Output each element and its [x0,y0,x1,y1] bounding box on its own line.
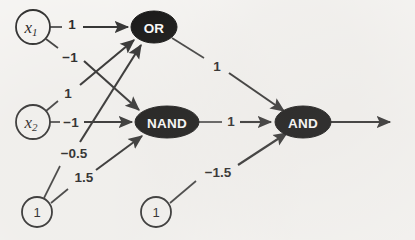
node-gate-nand-label: NAND [147,116,187,131]
edge-nand-and: 1 [198,114,271,129]
node-gate-nand[interactable]: NAND [135,106,199,138]
edge-x2-nand: −1 [50,115,132,130]
diagram-canvas: 1 −1 1 −1 −0.5 1.5 [0,0,415,240]
edge-weight-x1-nand: −1 [62,50,78,65]
edge-x1-or: 1 [50,17,128,32]
node-x2[interactable]: x2 [16,105,50,139]
node-x1-subscript: 1 [32,26,38,38]
node-gate-or-label: OR [144,21,165,36]
edge-weight-bias1-or: −0.5 [61,146,88,161]
edge-bias2-and: −1.5 [170,133,287,203]
edge-weight-or-and: 1 [213,59,221,74]
node-bias-1-label: 1 [33,205,40,220]
node-bias-1[interactable]: 1 [22,197,52,227]
edge-or-and: 1 [172,38,284,111]
edge-weight-x1-or: 1 [68,17,76,32]
node-x2-subscript: 2 [32,121,38,133]
edge-weight-x2-or: 1 [64,86,72,101]
network-diagram: 1 −1 1 −1 −0.5 1.5 [0,0,415,240]
node-bias-2-label: 1 [152,205,159,220]
edge-weight-bias1-nand: 1.5 [75,170,94,185]
node-gate-or[interactable]: OR [131,11,177,43]
node-x1[interactable]: x1 [16,10,50,44]
edge-weight-bias2-and: −1.5 [205,165,232,180]
node-gate-and-label: AND [288,116,318,131]
edge-weight-x2-nand: −1 [63,115,79,130]
node-bias-2[interactable]: 1 [141,197,171,227]
node-gate-and[interactable]: AND [275,106,331,138]
edge-weight-nand-and: 1 [227,114,235,129]
